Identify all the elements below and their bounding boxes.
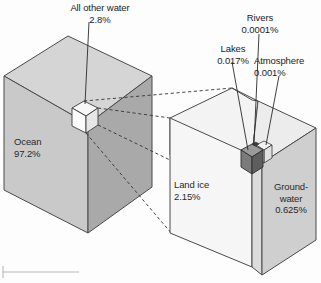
label-groundwater-value: 0.625% xyxy=(262,204,320,216)
label-atmosphere-name: Atmosphere xyxy=(254,55,321,67)
label-rivers-name: Rivers xyxy=(222,12,298,24)
label-atmosphere-value: 0.001% xyxy=(254,67,321,79)
ocean-cube xyxy=(4,36,152,233)
label-groundwater-name-line1: Ground- xyxy=(262,181,320,193)
label-ocean-value: 97.2% xyxy=(14,148,78,160)
label-groundwater-name-line2: water xyxy=(262,193,320,205)
label-land-ice: Land ice 2.15% xyxy=(174,179,242,202)
label-atmosphere: Atmosphere 0.001% xyxy=(254,55,321,78)
label-all-other-water-name: All other water xyxy=(52,2,148,14)
scale-bar xyxy=(3,266,79,278)
label-all-other-water-value: 2.8% xyxy=(52,14,148,26)
figure-canvas: All other water 2.8% Rivers 0.0001% Lake… xyxy=(0,0,321,283)
label-all-other-water: All other water 2.8% xyxy=(52,2,148,25)
label-ocean-name: Ocean xyxy=(14,136,78,148)
label-ocean: Ocean 97.2% xyxy=(14,136,78,159)
label-rivers-value: 0.0001% xyxy=(222,24,298,36)
label-lakes-name: Lakes xyxy=(200,43,266,55)
label-groundwater: Ground- water 0.625% xyxy=(262,181,320,216)
label-land-ice-value: 2.15% xyxy=(174,191,242,203)
label-land-ice-name: Land ice xyxy=(174,179,242,191)
label-rivers: Rivers 0.0001% xyxy=(222,12,298,35)
